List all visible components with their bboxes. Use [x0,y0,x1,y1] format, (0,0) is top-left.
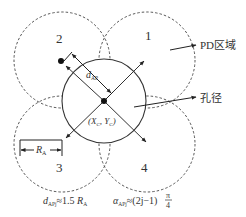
aperture-label: 孔径 [200,92,222,104]
dap-extension-1 [64,52,72,61]
region-label-1: 1 [145,28,152,43]
ra-label: RA [35,144,47,156]
center-point [101,98,107,104]
pd-region-callout-arrow [170,45,196,50]
region-label-4: 4 [141,160,148,175]
region-label-2: 2 [56,31,63,46]
distance-formula: dAPj≈1.5 RA [43,195,87,207]
angle-formula: αAPj≈(2j−1) [113,195,157,207]
region-label-3: 3 [56,160,63,175]
angle-fraction-denominator: 4 [166,201,170,210]
pd-region-label: PD区域 [200,39,236,51]
pd-center-point-2 [58,58,64,64]
pd-region-diagram: RA dAP (XC, YC) 1 2 3 4 PD区域 孔径 dAPj≈1.5… [0,0,246,217]
angle-fraction-numerator: π [166,191,170,200]
